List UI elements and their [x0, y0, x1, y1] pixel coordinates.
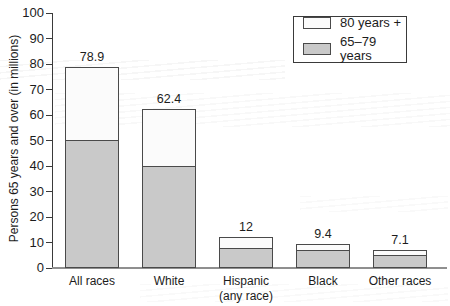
bar-total-label-other-races: 7.1	[370, 233, 430, 248]
y-tick-label: 100	[12, 5, 44, 21]
bar-total-label-hispanic: 12	[216, 220, 276, 235]
legend-item-65-79-years: 65–79 years	[303, 35, 406, 63]
bar-segment-65-79-other-races	[374, 255, 426, 267]
bar-segment-65-79-all-races	[66, 140, 118, 267]
y-tick-mark	[46, 38, 52, 39]
bar-black	[296, 244, 350, 268]
y-tick-label: 50	[12, 133, 44, 149]
y-tick-mark	[46, 115, 52, 116]
y-tick-label: 10	[12, 235, 44, 251]
y-tick-label: 0	[12, 260, 44, 276]
x-category-sublabel-hispanic: (any race)	[204, 289, 288, 304]
legend-item-80-years-plus: 80 years +	[303, 16, 406, 30]
x-category-label-all-races: All races	[50, 274, 134, 289]
bar-total-label-black: 9.4	[293, 227, 353, 242]
stacked-bar-chart-figure: Persons 65 years and over (in millions) …	[0, 0, 450, 306]
legend-swatch-80-years-plus-icon	[303, 17, 331, 29]
x-category-label-white: White	[127, 274, 211, 289]
legend: 80 years + 65–79 years	[293, 16, 407, 63]
bar-all-races	[65, 67, 119, 268]
y-tick-mark	[46, 268, 52, 269]
x-category-label-black: Black	[281, 274, 365, 289]
y-tick-label: 30	[12, 184, 44, 200]
y-tick-mark	[46, 242, 52, 243]
bar-total-label-all-races: 78.9	[62, 50, 122, 65]
y-tick-label: 40	[12, 158, 44, 174]
x-category-label-hispanic: Hispanic(any race)	[204, 274, 288, 304]
y-tick-mark	[46, 191, 52, 192]
bar-total-label-white: 62.4	[139, 92, 199, 107]
y-tick-mark	[46, 140, 52, 141]
y-tick-label: 70	[12, 82, 44, 98]
bar-white	[142, 109, 196, 268]
bar-segment-65-79-white	[143, 166, 195, 267]
scan-artifact	[300, 196, 448, 212]
y-tick-label: 60	[12, 107, 44, 123]
legend-swatch-65-79-years-icon	[303, 43, 331, 55]
y-tick-mark	[46, 89, 52, 90]
y-tick-mark	[46, 64, 52, 65]
x-category-label-other-races: Other races	[358, 274, 442, 289]
y-tick-mark	[46, 13, 52, 14]
legend-label-65-79-years: 65–79 years	[340, 35, 406, 63]
legend-label-80-years-plus: 80 years +	[340, 16, 401, 30]
y-tick-mark	[46, 166, 52, 167]
y-tick-label: 20	[12, 209, 44, 225]
y-tick-label: 90	[12, 31, 44, 47]
bar-segment-65-79-hispanic	[220, 248, 272, 267]
y-tick-mark	[46, 217, 52, 218]
bar-hispanic	[219, 237, 273, 268]
y-axis-line	[52, 13, 53, 268]
bar-segment-65-79-black	[297, 250, 349, 267]
y-tick-label: 80	[12, 56, 44, 72]
bar-other-races	[373, 250, 427, 268]
